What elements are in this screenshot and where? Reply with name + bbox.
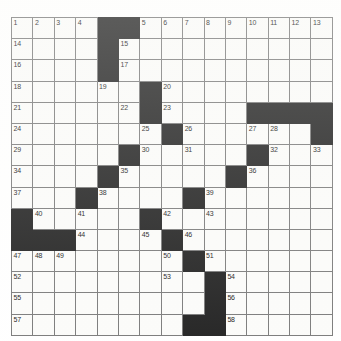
crossword-cell[interactable]: 36 — [247, 166, 268, 187]
crossword-cell[interactable]: 56 — [225, 293, 246, 314]
crossword-cell[interactable]: 34 — [12, 166, 33, 187]
crossword-cell[interactable] — [33, 81, 54, 102]
crossword-cell[interactable]: 47 — [12, 251, 33, 272]
crossword-cell[interactable]: 37 — [12, 187, 33, 208]
crossword-cell[interactable] — [76, 166, 97, 187]
crossword-cell[interactable] — [33, 187, 54, 208]
crossword-cell[interactable]: 24 — [12, 123, 33, 144]
crossword-cell[interactable] — [247, 314, 268, 335]
crossword-grid[interactable]: 1234567891011121314151617181920212223242… — [11, 17, 333, 336]
crossword-cell[interactable] — [76, 272, 97, 293]
crossword-cell[interactable]: 27 — [247, 123, 268, 144]
crossword-cell[interactable] — [33, 272, 54, 293]
crossword-cell[interactable] — [76, 81, 97, 102]
crossword-cell[interactable] — [204, 81, 225, 102]
crossword-cell[interactable] — [225, 145, 246, 166]
crossword-cell[interactable] — [33, 123, 54, 144]
crossword-cell[interactable] — [183, 293, 204, 314]
crossword-cell[interactable] — [268, 39, 289, 60]
crossword-cell[interactable]: 28 — [268, 123, 289, 144]
crossword-cell[interactable] — [183, 81, 204, 102]
crossword-cell[interactable] — [268, 166, 289, 187]
crossword-cell[interactable] — [247, 293, 268, 314]
crossword-cell[interactable] — [268, 251, 289, 272]
crossword-cell[interactable] — [97, 123, 118, 144]
crossword-cell[interactable]: 49 — [54, 251, 75, 272]
crossword-cell[interactable] — [268, 293, 289, 314]
crossword-cell[interactable] — [76, 60, 97, 81]
crossword-cell[interactable] — [161, 39, 182, 60]
crossword-cell[interactable] — [76, 314, 97, 335]
crossword-cell[interactable]: 5 — [140, 18, 161, 39]
crossword-cell[interactable] — [183, 272, 204, 293]
crossword-cell[interactable] — [204, 145, 225, 166]
crossword-cell[interactable] — [225, 187, 246, 208]
crossword-cell[interactable] — [97, 145, 118, 166]
crossword-cell[interactable]: 30 — [140, 145, 161, 166]
crossword-cell[interactable]: 15 — [118, 39, 139, 60]
crossword-cell[interactable]: 13 — [311, 18, 332, 39]
crossword-cell[interactable]: 51 — [204, 251, 225, 272]
crossword-cell[interactable] — [97, 102, 118, 123]
crossword-cell[interactable] — [225, 123, 246, 144]
crossword-cell[interactable] — [33, 145, 54, 166]
crossword-cell[interactable]: 26 — [183, 123, 204, 144]
crossword-cell[interactable] — [33, 166, 54, 187]
crossword-cell[interactable] — [290, 293, 311, 314]
crossword-cell[interactable]: 43 — [204, 208, 225, 229]
crossword-cell[interactable]: 39 — [204, 187, 225, 208]
crossword-cell[interactable] — [76, 293, 97, 314]
crossword-cell[interactable] — [290, 314, 311, 335]
crossword-cell[interactable] — [140, 187, 161, 208]
crossword-cell[interactable]: 54 — [225, 272, 246, 293]
crossword-cell[interactable] — [225, 60, 246, 81]
crossword-cell[interactable] — [97, 314, 118, 335]
crossword-cell[interactable] — [76, 123, 97, 144]
crossword-cell[interactable] — [140, 39, 161, 60]
crossword-cell[interactable] — [54, 81, 75, 102]
crossword-cell[interactable] — [225, 102, 246, 123]
crossword-cell[interactable] — [54, 166, 75, 187]
crossword-cell[interactable] — [33, 314, 54, 335]
crossword-cell[interactable]: 23 — [161, 102, 182, 123]
crossword-cell[interactable] — [54, 314, 75, 335]
crossword-cell[interactable] — [183, 39, 204, 60]
crossword-cell[interactable] — [290, 60, 311, 81]
crossword-cell[interactable]: 12 — [290, 18, 311, 39]
crossword-cell[interactable] — [204, 60, 225, 81]
crossword-cell[interactable] — [140, 293, 161, 314]
crossword-cell[interactable]: 46 — [183, 229, 204, 250]
crossword-cell[interactable] — [290, 166, 311, 187]
crossword-cell[interactable] — [247, 60, 268, 81]
crossword-cell[interactable] — [225, 251, 246, 272]
crossword-cell[interactable]: 14 — [12, 39, 33, 60]
crossword-cell[interactable]: 45 — [140, 229, 161, 250]
crossword-cell[interactable]: 7 — [183, 18, 204, 39]
crossword-cell[interactable]: 17 — [118, 60, 139, 81]
crossword-cell[interactable] — [247, 229, 268, 250]
crossword-cell[interactable]: 4 — [76, 18, 97, 39]
crossword-cell[interactable]: 44 — [76, 229, 97, 250]
crossword-cell[interactable] — [247, 272, 268, 293]
crossword-cell[interactable] — [140, 251, 161, 272]
crossword-cell[interactable] — [183, 166, 204, 187]
crossword-cell[interactable]: 50 — [161, 251, 182, 272]
crossword-cell[interactable] — [204, 166, 225, 187]
crossword-cell[interactable] — [311, 229, 332, 250]
crossword-cell[interactable]: 29 — [12, 145, 33, 166]
crossword-cell[interactable] — [140, 314, 161, 335]
crossword-cell[interactable] — [161, 314, 182, 335]
crossword-cell[interactable] — [33, 60, 54, 81]
crossword-cell[interactable] — [268, 81, 289, 102]
crossword-cell[interactable] — [76, 251, 97, 272]
crossword-cell[interactable] — [290, 272, 311, 293]
crossword-cell[interactable] — [76, 145, 97, 166]
crossword-cell[interactable] — [268, 60, 289, 81]
crossword-cell[interactable] — [225, 229, 246, 250]
crossword-cell[interactable] — [97, 272, 118, 293]
crossword-cell[interactable]: 48 — [33, 251, 54, 272]
crossword-cell[interactable] — [311, 272, 332, 293]
crossword-cell[interactable]: 58 — [225, 314, 246, 335]
crossword-cell[interactable]: 38 — [97, 187, 118, 208]
crossword-cell[interactable] — [140, 166, 161, 187]
